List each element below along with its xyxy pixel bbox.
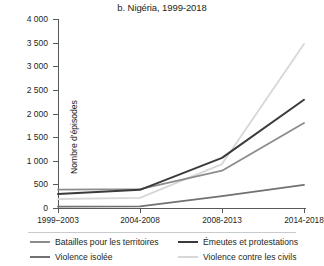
legend-item-violence-civils: Violence contre les civils [178,252,296,262]
legend-divider [28,232,296,233]
legend-label-violence-civils: Violence contre les civils [203,252,296,262]
legend-label-emeutes: Émeutes et protestations [203,237,298,247]
series-line [58,44,304,199]
legend-item-violence-isolee: Violence isolée [30,252,113,262]
legend-swatch-violence-isolee [30,256,50,258]
legend-item-batailles: Batailles pour les territoires [30,237,159,247]
legend-label-violence-isolee: Violence isolée [55,252,113,262]
legend-item-emeutes: Émeutes et protestations [178,237,298,247]
legend-label-batailles: Batailles pour les territoires [55,237,159,247]
legend-swatch-violence-civils [178,256,198,258]
series-line [58,185,304,207]
chart-figure: b. Nigéria, 1999-2018 05001 0001 5002 00… [0,0,324,266]
chart-legend: Batailles pour les territoires Émeutes e… [0,232,324,266]
series-line [58,123,304,190]
legend-swatch-emeutes [178,241,198,243]
legend-swatch-batailles [30,241,50,243]
series-lines [0,0,324,266]
